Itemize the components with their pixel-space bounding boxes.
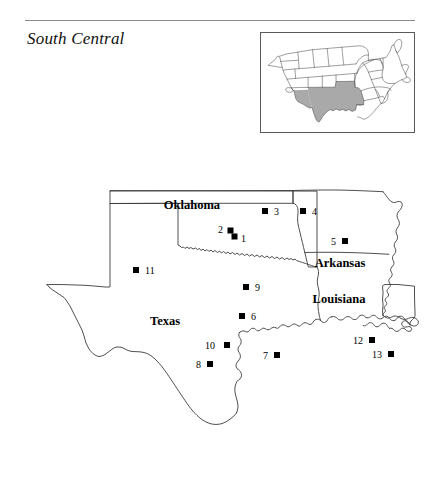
site-marker-7[interactable]: 7 — [263, 350, 280, 361]
louisiana-mouth-detail — [363, 323, 389, 329]
marker-label-9: 9 — [255, 282, 260, 293]
us-locator-svg — [261, 33, 414, 132]
marker-label-10: 10 — [205, 340, 215, 351]
texas-west-border — [47, 285, 237, 425]
state-label-arkansas: Arkansas — [315, 256, 366, 270]
site-marker-9[interactable]: 9 — [243, 282, 260, 293]
marker-square-2[interactable] — [228, 228, 234, 234]
site-marker-12[interactable]: 12 — [353, 335, 375, 346]
marker-label-2: 2 — [218, 224, 223, 235]
marker-label-3: 3 — [274, 206, 279, 217]
site-marker-13[interactable]: 13 — [372, 349, 394, 360]
marker-label-8: 8 — [196, 359, 201, 370]
marker-square-5[interactable] — [342, 238, 348, 244]
marker-square-10[interactable] — [224, 342, 230, 348]
marker-label-7: 7 — [263, 350, 268, 361]
site-marker-1[interactable]: 1 — [232, 233, 247, 244]
marker-square-7[interactable] — [274, 352, 280, 358]
site-marker-10[interactable]: 10 — [205, 340, 230, 351]
marker-label-4: 4 — [312, 206, 317, 217]
south-central-region-figure: South Central — [0, 0, 440, 481]
state-label-group: OklahomaArkansasLouisianaTexas — [150, 198, 366, 328]
site-marker-6[interactable]: 6 — [239, 311, 256, 322]
site-marker-2[interactable]: 2 — [218, 224, 234, 235]
marker-square-4[interactable] — [300, 208, 306, 214]
site-marker-4[interactable]: 4 — [300, 206, 317, 217]
region-map-svg: OklahomaArkansasLouisianaTexas 123456789… — [0, 155, 440, 481]
arkansas-east-border — [383, 192, 402, 316]
state-label-texas: Texas — [150, 314, 180, 328]
us-locator-inset — [260, 32, 415, 133]
south-central-detail-map: OklahomaArkansasLouisianaTexas 123456789… — [0, 155, 440, 481]
marker-square-3[interactable] — [262, 208, 268, 214]
marker-square-13[interactable] — [388, 351, 394, 357]
marker-square-1[interactable] — [232, 234, 238, 240]
marker-square-12[interactable] — [369, 337, 375, 343]
state-boundaries — [47, 190, 418, 424]
site-marker-5[interactable]: 5 — [331, 236, 348, 247]
marker-label-1: 1 — [241, 233, 246, 244]
texas-rio-grande-tip — [235, 332, 242, 413]
marker-label-13: 13 — [372, 349, 382, 360]
site-marker-11[interactable]: 11 — [133, 265, 155, 276]
header-divider — [25, 20, 415, 21]
site-marker-8[interactable]: 8 — [196, 359, 213, 370]
marker-square-8[interactable] — [207, 361, 213, 367]
marker-label-11: 11 — [145, 265, 155, 276]
marker-label-6: 6 — [251, 311, 256, 322]
marker-label-5: 5 — [331, 236, 336, 247]
marker-group: 12345678910111213 — [133, 206, 394, 370]
marker-label-12: 12 — [353, 335, 363, 346]
state-label-oklahoma: Oklahoma — [164, 198, 221, 212]
state-label-louisiana: Louisiana — [313, 292, 367, 306]
texas-panhandle-west — [47, 204, 110, 288]
page-title: South Central — [27, 29, 125, 49]
oklahoma-arkansas-border — [293, 191, 317, 268]
site-marker-3[interactable]: 3 — [262, 206, 279, 217]
louisiana-delta-detail — [383, 316, 418, 332]
marker-square-11[interactable] — [133, 267, 139, 273]
marker-square-9[interactable] — [243, 284, 249, 290]
marker-square-6[interactable] — [239, 313, 245, 319]
